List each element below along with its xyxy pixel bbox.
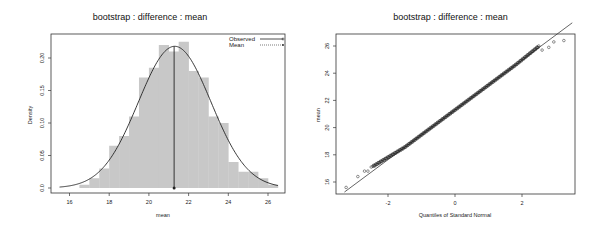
histogram-bar — [228, 162, 238, 188]
legend-mean-marker — [282, 44, 284, 46]
x-tick-label: 18 — [106, 199, 112, 205]
histogram-bar — [129, 117, 139, 189]
histogram-bar — [79, 185, 89, 188]
y-tick-label: 0.20 — [39, 53, 45, 64]
x-tick-label: 24 — [225, 199, 231, 205]
y-tick-label: 0.0 — [39, 184, 45, 192]
histogram-bar — [258, 178, 268, 188]
histogram-bar — [99, 169, 109, 189]
histogram-plot: 1618202224260.00.050.100.150.20meanDensi… — [0, 0, 300, 227]
qq-frame — [336, 34, 575, 194]
histogram-bar — [208, 117, 218, 189]
y-tick-label: 18 — [324, 152, 330, 158]
x-tick-label: 26 — [265, 199, 271, 205]
x-tick-label: 2 — [520, 200, 523, 206]
histogram-bar — [119, 136, 129, 188]
qq-panel: bootstrap : difference : mean -202161820… — [300, 0, 601, 227]
x-axis-label: mean — [156, 212, 170, 218]
legend-mean-label: Mean — [229, 42, 244, 48]
legend: ObservedMean — [229, 36, 284, 48]
y-tick-label: 0.15 — [39, 85, 45, 96]
x-tick-label: 22 — [186, 199, 192, 205]
histogram-bar — [89, 178, 99, 188]
histogram-bar — [149, 68, 159, 188]
y-tick-label: 22 — [324, 97, 330, 103]
y-tick-label: 24 — [324, 70, 330, 76]
observed-point — [173, 187, 176, 190]
y-axis-label: mean — [315, 108, 321, 122]
y-tick-label: 26 — [324, 43, 330, 49]
y-tick-label: 0.10 — [39, 118, 45, 129]
y-tick-label: 0.05 — [39, 150, 45, 161]
histogram-panel: bootstrap : difference : mean 1618202224… — [0, 0, 300, 227]
x-tick-label: 0 — [453, 200, 456, 206]
histogram-bar — [218, 123, 228, 188]
histogram-bar — [179, 42, 189, 188]
histogram-bars — [79, 42, 278, 188]
y-axis-label: Density — [27, 106, 33, 125]
x-axis-label: Quantiles of Standard Normal — [419, 212, 491, 218]
histogram-bar — [159, 45, 169, 188]
x-tick-label: 16 — [66, 199, 72, 205]
qq-plot: -202161820222426Quantiles of Standard No… — [300, 0, 601, 227]
y-tick-label: 16 — [324, 179, 330, 185]
y-tick-label: 20 — [324, 125, 330, 131]
histogram-bar — [238, 172, 248, 188]
histogram-bar — [189, 71, 199, 188]
histogram-bar — [139, 78, 149, 189]
x-tick-label: -2 — [386, 200, 391, 206]
x-tick-label: 20 — [146, 199, 152, 205]
